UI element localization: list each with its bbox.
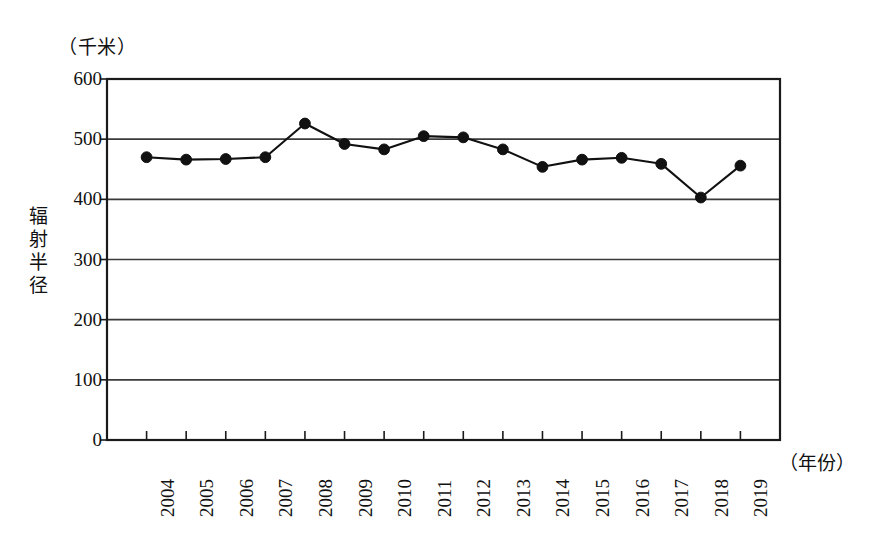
x-axis-title: （年份） <box>779 448 855 475</box>
x-tick-label: 2017 <box>671 447 693 517</box>
x-tick-label: 2019 <box>750 447 772 517</box>
x-tick-label: 2018 <box>711 447 733 517</box>
line-chart: （千米） 辐射半径 6005004003002001000 2004200520… <box>0 0 872 533</box>
x-tick-label: 2013 <box>513 447 535 517</box>
x-tick-label: 2016 <box>632 447 654 517</box>
x-tick-label: 2012 <box>473 447 495 517</box>
x-tick-label: 2006 <box>236 447 258 517</box>
x-tick-label: 2011 <box>434 447 456 517</box>
x-tick-label: 2007 <box>275 447 297 517</box>
x-tick-label: 2015 <box>592 447 614 517</box>
x-tick-label: 2009 <box>355 447 377 517</box>
x-axis-tick-labels: 2004200520062007200820092010201120122013… <box>0 0 872 533</box>
x-tick-label: 2010 <box>394 447 416 517</box>
x-tick-label: 2004 <box>157 447 179 517</box>
x-tick-label: 2005 <box>196 447 218 517</box>
x-tick-label: 2014 <box>552 447 574 517</box>
x-tick-label: 2008 <box>315 447 337 517</box>
